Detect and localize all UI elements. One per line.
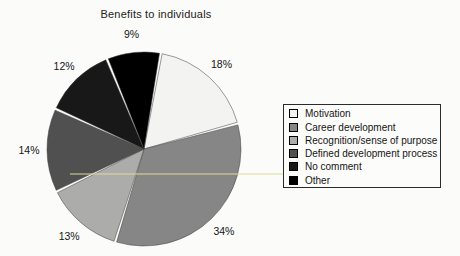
pie-slice-label-other: 9%: [124, 28, 139, 40]
legend-swatch-no-comment: [289, 162, 298, 171]
pie-slice-label-career-development: 34%: [213, 225, 234, 237]
legend-item-recognition-sense-of-purpose: Recognition/sense of purpose: [289, 134, 440, 147]
legend-item-motivation: Motivation: [289, 107, 440, 120]
legend-label: No comment: [305, 161, 362, 172]
legend-swatch-other: [289, 176, 298, 185]
scanned-figure: Benefits to individuals 18%34%13%14%12%9…: [0, 0, 460, 256]
pie-slice-label-recognition-sense-of-purpose: 13%: [59, 230, 80, 242]
pie-slice-label-no-comment: 12%: [54, 60, 75, 72]
legend-swatch-career-development: [289, 123, 298, 132]
legend-item-career-development: Career development: [289, 121, 440, 134]
legend-label: Career development: [305, 122, 396, 133]
legend-swatch-defined-development-process: [289, 149, 298, 158]
legend: Motivation Career development Recognitio…: [283, 104, 441, 188]
legend-label: Defined development process: [305, 148, 437, 159]
legend-swatch-recognition-sense-of-purpose: [289, 136, 298, 145]
legend-swatch-motivation: [289, 109, 298, 118]
legend-label: Motivation: [305, 108, 351, 119]
legend-item-no-comment: No comment: [289, 160, 440, 173]
legend-item-other: Other: [289, 174, 440, 187]
legend-label: Other: [305, 175, 330, 186]
legend-item-defined-development-process: Defined development process: [289, 147, 440, 160]
pie-slices: [47, 52, 241, 246]
pie-slice-label-defined-development-process: 14%: [18, 144, 39, 156]
legend-label: Recognition/sense of purpose: [305, 135, 437, 146]
pie-slice-label-motivation: 18%: [211, 58, 232, 70]
